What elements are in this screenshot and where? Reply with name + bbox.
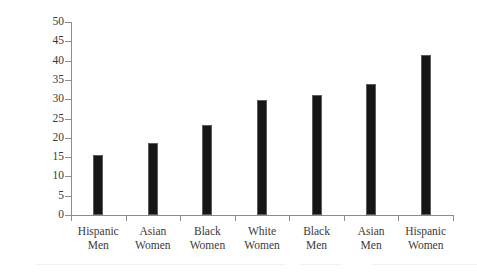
x-axis-tick-mark bbox=[453, 215, 454, 221]
y-axis-tick-mark bbox=[65, 119, 71, 120]
x-axis-category-label: HispanicWomen bbox=[389, 224, 463, 252]
y-axis-tick-mark bbox=[65, 176, 71, 177]
x-axis-tick-mark bbox=[71, 215, 72, 221]
y-axis-tick-labels: 50454035302520151050 bbox=[38, 0, 64, 275]
x-axis-line bbox=[71, 215, 453, 216]
bar bbox=[312, 95, 322, 215]
bar bbox=[202, 125, 212, 215]
y-axis-tick-label: 5 bbox=[38, 190, 64, 202]
x-axis-tick-mark bbox=[235, 215, 236, 221]
y-axis-tick-mark bbox=[65, 99, 71, 100]
y-axis-tick-label: 40 bbox=[38, 55, 64, 67]
bar bbox=[93, 155, 103, 215]
x-axis-tick-mark bbox=[126, 215, 127, 221]
y-axis-tick-label: 20 bbox=[38, 132, 64, 144]
y-axis-tick-mark bbox=[65, 138, 71, 139]
bar bbox=[257, 100, 267, 215]
category-label-line1: Hispanic bbox=[389, 224, 463, 238]
y-axis-tick-label: 0 bbox=[38, 209, 64, 221]
bar-chart: Percentage 50454035302520151050 Hispanic… bbox=[0, 0, 477, 275]
y-axis-line bbox=[71, 22, 72, 216]
scan-artifact-lines bbox=[0, 262, 477, 268]
y-axis-tick-label: 25 bbox=[38, 113, 64, 125]
y-axis-tick-label: 50 bbox=[38, 16, 64, 28]
x-axis-tick-mark bbox=[398, 215, 399, 221]
bar bbox=[148, 143, 158, 215]
y-axis-tick-label: 45 bbox=[38, 35, 64, 47]
y-axis-tick-label: 15 bbox=[38, 151, 64, 163]
bar bbox=[366, 84, 376, 215]
y-axis-tick-label: 30 bbox=[38, 93, 64, 105]
y-axis-tick-mark bbox=[65, 61, 71, 62]
category-label-line2: Women bbox=[389, 238, 463, 252]
y-axis-tick-mark bbox=[65, 22, 71, 23]
bar bbox=[421, 55, 431, 215]
x-axis-tick-mark bbox=[289, 215, 290, 221]
y-axis-tick-mark bbox=[65, 41, 71, 42]
y-axis-tick-label: 35 bbox=[38, 74, 64, 86]
x-axis-tick-mark bbox=[344, 215, 345, 221]
y-axis-tick-mark bbox=[65, 157, 71, 158]
y-axis-tick-mark bbox=[65, 80, 71, 81]
y-axis-tick-mark bbox=[65, 196, 71, 197]
x-axis-tick-mark bbox=[180, 215, 181, 221]
y-axis-tick-label: 10 bbox=[38, 170, 64, 182]
